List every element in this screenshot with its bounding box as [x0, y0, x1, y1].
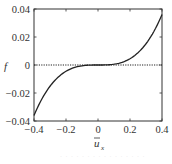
x-axis-label-base: u	[94, 137, 100, 149]
y-tick-label: −0.02	[6, 88, 30, 99]
x-tick-labels: −0.4−0.200.20.4	[24, 124, 169, 135]
y-tick-label: 0.04	[12, 4, 31, 15]
x-axis-label: u x	[94, 137, 105, 152]
figure-caption: · · · · · · · · · · · · · · · ·	[60, 154, 170, 162]
x-tick-label: 0	[95, 124, 100, 135]
x-tick-label: 0.4	[155, 124, 169, 135]
x-axis-label-subscript: x	[100, 144, 105, 152]
y-tick-labels: −0.04−0.0200.020.04	[6, 4, 31, 127]
x-tick-label: −0.2	[56, 124, 75, 135]
chart: −0.4−0.200.20.4 −0.04−0.0200.020.04 f u …	[0, 0, 172, 164]
data-series	[34, 15, 162, 116]
y-tick-label: 0	[25, 60, 30, 71]
y-tick-label: −0.04	[6, 116, 31, 127]
y-axis-label: f	[4, 60, 9, 72]
y-tick-label: 0.02	[12, 32, 30, 43]
x-tick-label: 0.2	[123, 124, 136, 135]
